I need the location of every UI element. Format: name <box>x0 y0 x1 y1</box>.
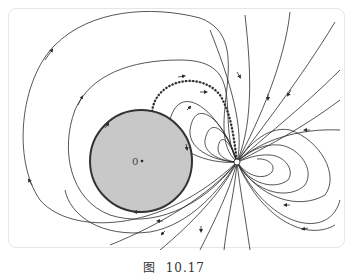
caption-number: 10.17 <box>166 262 205 274</box>
disk-label: 0 <box>132 156 138 167</box>
figure-caption: 图 10.17 <box>0 262 348 274</box>
disk-center-dot <box>141 160 144 163</box>
caption-prefix: 图 <box>143 262 156 274</box>
streamline-diagram: 0 <box>0 0 348 250</box>
singularity-point <box>234 159 240 165</box>
